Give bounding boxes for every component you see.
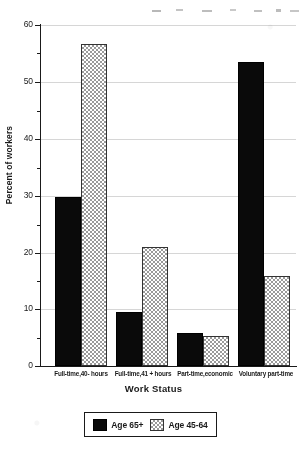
bar-part-time-economic-age-65-plus (177, 333, 203, 366)
bar-full-time-41-plus-hours-age-45-64 (142, 247, 168, 366)
bar-full-time-41-plus-hours-age-65-plus (116, 312, 142, 366)
y-tick-label-20: 20 (5, 248, 33, 257)
legend-label-age-65-plus: Age 65+ (111, 420, 143, 430)
x-label-voluntary-part-time: Voluntary part-time (222, 370, 307, 378)
y-axis-title: Percent of workers (4, 100, 14, 230)
legend-entry-age-65-plus: Age 65+ (93, 419, 143, 431)
bar-full-time-40-hours-age-65-plus (55, 197, 81, 366)
gridline-60 (41, 25, 296, 26)
chart-legend: Age 65+ Age 45-64 (84, 412, 217, 437)
bar-voluntary-part-time-age-45-64 (264, 276, 290, 366)
bar-part-time-economic-age-45-64 (203, 336, 229, 366)
y-tick-label-30: 30 (5, 191, 33, 200)
legend-entry-age-45-64: Age 45-64 (150, 419, 207, 431)
y-tick-label-60: 60 (5, 20, 33, 29)
scan-artifact-marks (150, 1, 305, 8)
bar-chart-figure: Percent of workers 60 50 40 30 20 10 (0, 0, 307, 450)
y-tick-label-40: 40 (5, 134, 33, 143)
y-tick-label-10: 10 (5, 304, 33, 313)
y-tick-0 (35, 366, 41, 367)
x-axis-title: Work Status (0, 383, 307, 394)
y-tick-label-0: 0 (5, 361, 33, 370)
x-axis-line (40, 366, 297, 367)
bar-full-time-40-hours-age-45-64 (81, 44, 107, 366)
plot-area (41, 25, 296, 366)
legend-swatch-checkered-icon (150, 419, 164, 431)
legend-swatch-solid-icon (93, 419, 107, 431)
bar-voluntary-part-time-age-65-plus (238, 62, 264, 366)
x-axis-tick-labels: Full-time,40- hours Full-time,41 + hours… (41, 370, 297, 381)
legend-label-age-45-64: Age 45-64 (168, 420, 207, 430)
y-tick-label-50: 50 (5, 77, 33, 86)
